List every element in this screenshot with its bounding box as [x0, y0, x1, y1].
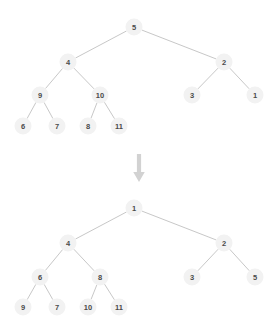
- tree-node-8[interactable]: 8: [92, 269, 109, 286]
- before-tree-edges: [27, 30, 249, 119]
- tree-node-3[interactable]: 3: [184, 269, 201, 286]
- node-circle: [15, 118, 32, 135]
- after-tree-edges: [27, 211, 249, 300]
- tree-diagram-svg: 54291031678111426835971011: [0, 0, 278, 334]
- tree-node-9[interactable]: 9: [15, 299, 32, 316]
- tree-node-9[interactable]: 9: [32, 87, 49, 104]
- tree-edge: [198, 68, 218, 89]
- tree-node-5[interactable]: 5: [247, 269, 264, 286]
- tree-node-8[interactable]: 8: [80, 118, 97, 135]
- tree-node-11[interactable]: 11: [111, 299, 128, 316]
- after-tree: 1426835971011: [15, 200, 264, 316]
- tree-node-5[interactable]: 5: [126, 19, 143, 36]
- tree-edge: [91, 285, 97, 299]
- tree-edge: [74, 249, 94, 271]
- tree-node-1[interactable]: 1: [126, 200, 143, 217]
- node-circle: [111, 299, 128, 316]
- tree-edge: [45, 250, 62, 271]
- node-circle: [111, 118, 128, 135]
- node-circle: [184, 269, 201, 286]
- tree-edge: [230, 249, 250, 270]
- node-circle: [216, 54, 233, 71]
- tree-node-7[interactable]: 7: [49, 299, 66, 316]
- tree-node-3[interactable]: 3: [184, 87, 201, 104]
- node-circle: [60, 235, 77, 252]
- tree-node-10[interactable]: 10: [92, 87, 109, 104]
- node-circle: [49, 118, 66, 135]
- tree-node-4[interactable]: 4: [60, 54, 77, 71]
- tree-edge: [230, 68, 249, 89]
- node-circle: [247, 87, 264, 104]
- tree-edge: [76, 212, 127, 239]
- tree-node-1[interactable]: 1: [247, 87, 264, 104]
- tree-edge: [44, 284, 53, 299]
- node-circle: [32, 269, 49, 286]
- node-circle: [49, 299, 66, 316]
- node-circle: [126, 200, 143, 217]
- tree-edge: [27, 284, 36, 299]
- node-circle: [32, 87, 49, 104]
- tree-edge: [142, 30, 216, 59]
- tree-node-2[interactable]: 2: [216, 54, 233, 71]
- tree-edge: [91, 103, 97, 118]
- tree-edge: [105, 284, 115, 300]
- tree-edge: [142, 211, 216, 240]
- tree-diagram-canvas: 54291031678111426835971011: [0, 0, 278, 334]
- tree-node-6[interactable]: 6: [32, 269, 49, 286]
- node-circle: [92, 87, 109, 104]
- tree-edge: [74, 68, 94, 89]
- tree-node-4[interactable]: 4: [60, 235, 77, 252]
- tree-edge: [46, 68, 63, 88]
- tree-node-2[interactable]: 2: [216, 235, 233, 252]
- tree-edge: [76, 31, 127, 58]
- node-circle: [15, 299, 32, 316]
- before-tree: 5429103167811: [15, 19, 264, 135]
- node-circle: [60, 54, 77, 71]
- node-circle: [247, 269, 264, 286]
- tree-edge: [104, 102, 114, 119]
- tree-edge: [27, 102, 36, 118]
- tree-node-11[interactable]: 11: [111, 118, 128, 135]
- down-arrow-icon: [133, 154, 145, 182]
- node-circle: [184, 87, 201, 104]
- tree-node-10[interactable]: 10: [80, 299, 97, 316]
- node-circle: [216, 235, 233, 252]
- node-circle: [126, 19, 143, 36]
- tree-edge: [44, 102, 53, 118]
- node-circle: [92, 269, 109, 286]
- tree-edge: [198, 249, 218, 271]
- tree-node-7[interactable]: 7: [49, 118, 66, 135]
- arrow-glyph: [133, 154, 145, 182]
- node-circle: [80, 118, 97, 135]
- tree-node-6[interactable]: 6: [15, 118, 32, 135]
- node-circle: [80, 299, 97, 316]
